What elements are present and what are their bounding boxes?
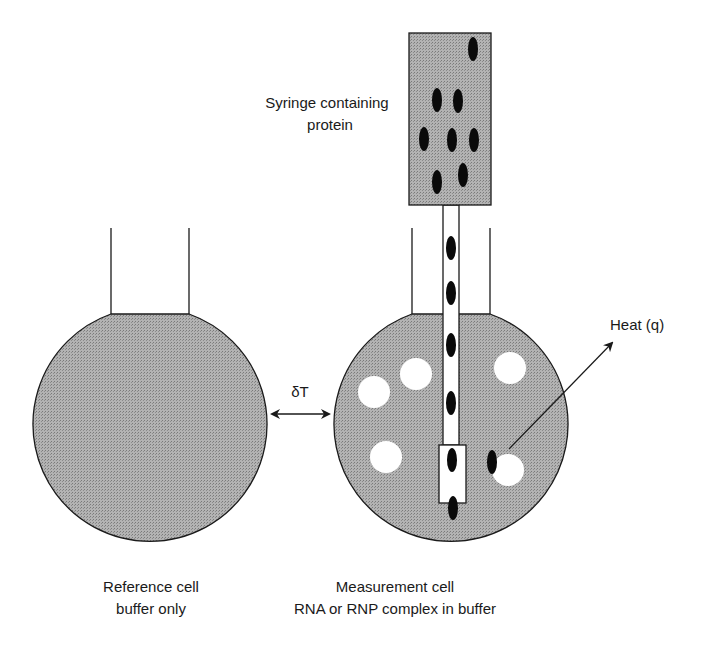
free-protein (487, 450, 497, 474)
syringe-protein (468, 37, 478, 61)
measurement-label-line2: RNA or RNP complex in buffer (294, 600, 496, 617)
itc-diagram: Syringe containing protein δT Heat (q) R… (0, 0, 713, 647)
syringe-protein (432, 88, 442, 112)
needle-protein (446, 281, 456, 305)
reference-label-line1: Reference cell (103, 578, 199, 595)
needle-protein (447, 448, 457, 472)
needle-protein (446, 333, 456, 357)
ligand-circle (370, 441, 402, 473)
needle-protein (446, 236, 456, 260)
syringe-protein (469, 128, 479, 152)
measurement-label-line1: Measurement cell (336, 578, 454, 595)
delta-t-label: δT (291, 383, 309, 400)
ligand-circle (358, 376, 390, 408)
syringe-barrel (409, 33, 491, 205)
needle-protein (446, 391, 456, 415)
syringe-label-line2: protein (307, 116, 353, 133)
syringe-protein (432, 170, 442, 194)
syringe-label-line1: Syringe containing (265, 94, 388, 111)
syringe-protein (458, 163, 468, 187)
ligand-circle (400, 358, 432, 390)
ligand-circle (494, 352, 526, 384)
syringe-protein (447, 128, 457, 152)
heat-label: Heat (q) (610, 316, 664, 333)
syringe-body (409, 33, 491, 205)
reference-cell (33, 228, 267, 541)
syringe-protein (453, 89, 463, 113)
syringe-protein (419, 127, 429, 151)
injected-protein (448, 496, 458, 520)
reference-cell-body (33, 314, 267, 541)
reference-label-line2: buffer only (116, 600, 186, 617)
